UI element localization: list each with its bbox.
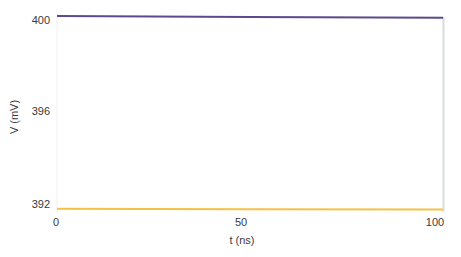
x-axis-label: t (ns) bbox=[229, 234, 254, 246]
x-tick-label: 100 bbox=[426, 216, 444, 228]
y-tick-label: 392 bbox=[32, 198, 50, 210]
x-tick-label: 0 bbox=[53, 216, 59, 228]
line-chart: 400 396 392 0 50 100 t (ns) V (mV) bbox=[0, 0, 461, 257]
y-tick-label: 400 bbox=[32, 14, 50, 26]
y-axis-label: V (mV) bbox=[8, 100, 20, 134]
plot-area bbox=[57, 10, 444, 215]
y-tick-label: 396 bbox=[32, 105, 50, 117]
x-tick-label: 50 bbox=[235, 216, 247, 228]
series-line-lower bbox=[57, 209, 443, 210]
